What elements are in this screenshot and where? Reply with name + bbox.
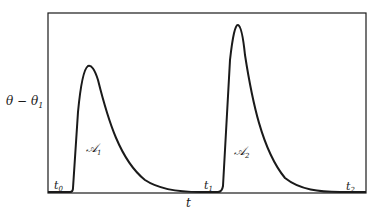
time-marker-t0: t0	[54, 179, 63, 193]
time-marker-t2: t2	[346, 180, 355, 194]
response-curve	[48, 25, 366, 192]
area-label-a1: 𝒜1	[86, 141, 101, 157]
pulse-response-diagram: θ − θ1 t t0 t1 t2 𝒜1 𝒜2	[0, 0, 379, 212]
y-axis-label: θ − θ1	[6, 94, 43, 110]
x-axis-label: t	[186, 196, 191, 210]
plot-frame	[48, 13, 366, 193]
area-label-a2: 𝒜2	[234, 144, 250, 160]
time-marker-t1: t1	[204, 179, 213, 193]
